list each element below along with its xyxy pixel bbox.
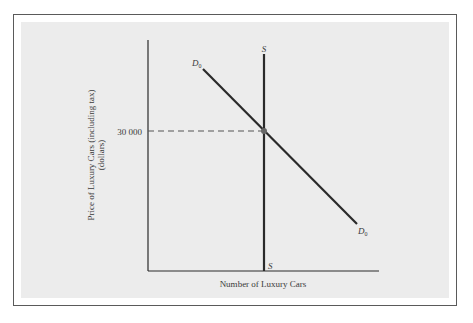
supply-label-top: S bbox=[262, 44, 267, 54]
supply-label-bottom: S bbox=[268, 261, 273, 271]
demand-curve-d0 bbox=[203, 69, 357, 224]
demand-label-end: D0 bbox=[357, 226, 368, 237]
y-tick-label-30000: 30 000 bbox=[117, 127, 142, 137]
x-axis-title: Number of Luxury Cars bbox=[220, 279, 307, 289]
chart-svg: 30 000 S S D0 D0 Number of Luxury Cars P… bbox=[0, 0, 473, 323]
y-axis-units: (dollars) bbox=[96, 140, 106, 171]
demand-label-start: D0 bbox=[191, 58, 202, 69]
y-axis-title: Price of Luxury Cars (including tax) bbox=[86, 89, 96, 220]
equilibrium-point bbox=[261, 128, 267, 134]
